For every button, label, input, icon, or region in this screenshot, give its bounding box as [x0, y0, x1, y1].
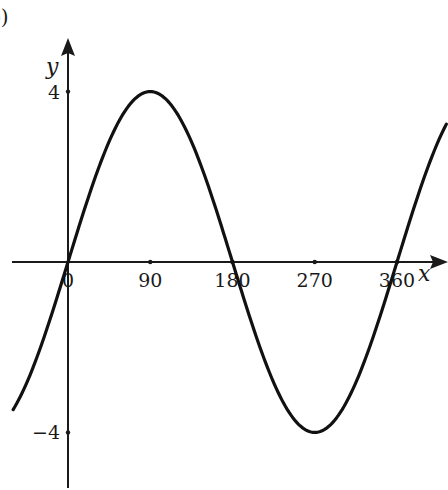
x-tick-label: 180: [214, 269, 250, 291]
y-tick-label: −4: [32, 421, 60, 443]
y-tick-mark: [66, 430, 70, 434]
x-axis-label: x: [418, 261, 431, 286]
sine-graph: b) 090180270360 4−4 y x: [0, 0, 448, 490]
y-tick-label: 4: [48, 81, 60, 103]
y-tick-mark: [66, 89, 70, 93]
x-tick-label: 90: [138, 269, 162, 291]
x-tick-mark: [148, 260, 152, 264]
x-tick-mark: [313, 260, 317, 264]
x-tick-label: 360: [379, 269, 415, 291]
part-label: b): [0, 5, 9, 29]
x-tick-label: 270: [297, 269, 333, 291]
y-axis-label: y: [45, 54, 59, 79]
